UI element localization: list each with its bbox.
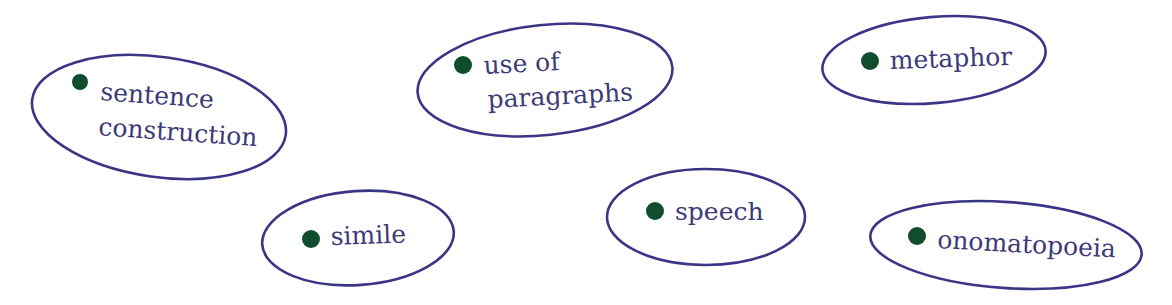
node-simile: simile bbox=[259, 184, 457, 291]
node-label: speech bbox=[675, 197, 764, 226]
nodes-layer: sentenceconstructionuse ofparagraphsmeta… bbox=[24, 7, 1145, 297]
bullet-dot-icon bbox=[302, 230, 320, 248]
node-label: sentence bbox=[100, 77, 215, 114]
node-label: simile bbox=[330, 219, 406, 251]
node-label: metaphor bbox=[889, 42, 1013, 75]
bullet-dot-icon bbox=[908, 227, 926, 245]
node-onomatopoeia: onomatopoeia bbox=[867, 193, 1144, 298]
node-use-of-paragraphs: use ofparagraphs bbox=[412, 12, 678, 148]
bullet-dot-icon bbox=[72, 74, 88, 90]
node-sentence-construction: sentenceconstruction bbox=[24, 40, 294, 194]
node-label: onomatopoeia bbox=[937, 225, 1117, 263]
node-label: construction bbox=[98, 112, 259, 152]
bullet-dot-icon bbox=[861, 52, 879, 70]
node-metaphor: metaphor bbox=[819, 7, 1050, 112]
bullet-dot-icon bbox=[454, 56, 472, 74]
node-label: use of bbox=[483, 47, 562, 80]
node-speech: speech bbox=[607, 169, 805, 265]
diagram-canvas: sentenceconstructionuse ofparagraphsmeta… bbox=[0, 0, 1172, 305]
node-label: paragraphs bbox=[487, 77, 634, 114]
ellipse-outline bbox=[412, 12, 678, 148]
bullet-dot-icon bbox=[646, 202, 664, 220]
